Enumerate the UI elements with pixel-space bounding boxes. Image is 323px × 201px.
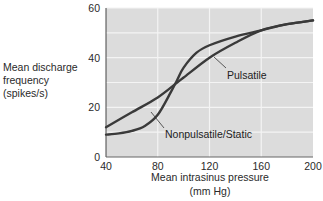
line-chart: 0204060 4080120160200 Pulsatile Nonpulsa…: [0, 0, 323, 201]
x-axis-label: Mean intrasinus pressure: [151, 171, 269, 183]
x-tick-label: 40: [100, 160, 112, 172]
y-tick-label: 20: [88, 101, 100, 113]
x-tick-label: 200: [304, 160, 322, 172]
y-tick-label: 40: [88, 52, 100, 64]
y-tick-labels: 0204060: [88, 2, 100, 163]
pulsatile-annotation: Pulsatile: [227, 69, 267, 81]
x-axis-unit-label: (mm Hg): [190, 185, 231, 197]
y-tick-label: 60: [88, 2, 100, 14]
nonpulsatile-static-annotation: Nonpulsatile/Static: [165, 128, 252, 140]
